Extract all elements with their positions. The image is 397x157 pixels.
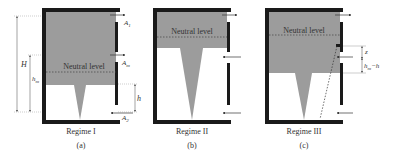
floor (153, 120, 231, 124)
floor (265, 120, 343, 124)
label-z: z (364, 48, 368, 56)
regime-label: Regime I (66, 127, 96, 136)
right-wall-upper (340, 22, 343, 52)
panel-caption: (b) (187, 141, 197, 150)
ceiling (153, 8, 231, 12)
right-wall-lower (227, 63, 230, 105)
floor (42, 120, 120, 124)
left-wall (153, 8, 157, 124)
ceiling (42, 8, 120, 12)
panel-caption: (c) (300, 141, 309, 150)
label-h: h (137, 94, 141, 103)
right-wall-upper (115, 22, 118, 52)
panel-c: Neutral level z hm−h Regime III (c) (265, 8, 380, 150)
panel-caption: (a) (77, 141, 86, 150)
svg-text:Am: Am (121, 59, 130, 68)
plume (74, 85, 86, 120)
left-wall (42, 8, 46, 124)
ceiling (265, 8, 343, 12)
neutral-level-label: Neutral level (171, 27, 213, 36)
left-wall (265, 8, 269, 124)
right-wall-lower (340, 63, 343, 105)
smoke-layer (269, 12, 340, 73)
regime-label: Regime II (176, 127, 209, 136)
panel-b: Neutral level Regime II (b) (153, 8, 241, 150)
plume (180, 48, 203, 120)
panel-a: Neutral level A1 Am A2 H hm h Regime I (… (14, 8, 141, 150)
svg-text:A2: A2 (121, 114, 129, 123)
smoke-layer (46, 12, 116, 85)
regimes-diagram: Neutral level A1 Am A2 H hm h Regime I (… (0, 0, 397, 157)
neutral-level-label: Neutral level (283, 26, 325, 35)
right-wall-lower (115, 62, 118, 105)
svg-text:hm−h: hm−h (364, 62, 380, 71)
label-H: H (20, 60, 28, 69)
svg-text:hm: hm (32, 75, 40, 84)
svg-text:A1: A1 (123, 19, 131, 28)
regime-label: Regime III (287, 127, 322, 136)
neutral-level-label: Neutral level (63, 62, 105, 71)
right-wall-upper (227, 22, 230, 52)
plume (295, 73, 312, 120)
